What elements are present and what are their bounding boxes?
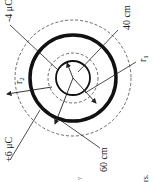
outer-radius-label: 60 cm	[98, 147, 109, 172]
stray-text: rs.	[141, 174, 150, 182]
r1-label: r1	[137, 55, 150, 62]
small-radius-arrow	[73, 78, 96, 103]
concentric-spheres-diagram: -4 μC +6 μC 40 cm 60 cm r1 r2 rs. '/	[0, 0, 154, 182]
stray-mark: '/	[77, 177, 83, 180]
r1-arrow	[85, 62, 136, 93]
outer-charge-label: +6 μC	[3, 136, 14, 162]
inner-charge-label: -4 μC	[3, 0, 14, 22]
inner-radius-label: 40 cm	[121, 5, 132, 30]
inner-radius-arrow	[67, 63, 73, 78]
outer-charge-leader	[10, 110, 40, 160]
outer-radius-leader	[60, 120, 100, 148]
